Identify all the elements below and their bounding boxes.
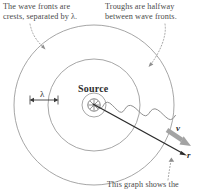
radius-axis-label: r	[187, 150, 191, 160]
wavelength-label: λ	[40, 89, 44, 99]
velocity-label: v	[176, 123, 180, 133]
wave-front-figure: The wave fronts are crests, separated by…	[0, 0, 201, 194]
caption-troughs-halfway: Troughs are halfway between wave fronts.	[105, 2, 199, 22]
leader-graph	[168, 158, 174, 181]
leader-graph-arrowhead-icon	[169, 158, 175, 162]
leader-troughs	[149, 24, 166, 67]
source-label: Source	[78, 83, 108, 94]
caption-wave-fronts-are-crests: The wave fronts are crests, separated by…	[3, 2, 103, 22]
figure-canvas	[0, 0, 201, 194]
leader-crests	[30, 24, 46, 50]
caption-this-graph-shows: This graph shows the	[107, 180, 201, 190]
leader-troughs-arrowhead-icon	[149, 62, 154, 67]
